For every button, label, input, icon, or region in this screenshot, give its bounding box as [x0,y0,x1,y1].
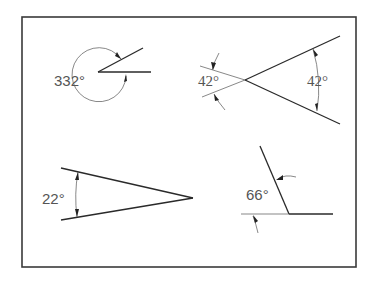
angle-66-label: 66° [246,186,269,203]
drawing-frame [22,17,356,267]
angle-22-arrowhead-top [75,172,79,180]
angle-22-upper-line [61,168,193,198]
angle-dimension-drawing: 332° 42° 42° 22° 66° [0,0,370,281]
angle-332-label: 332° [54,72,85,89]
angle-22-label: 22° [42,190,65,207]
angle-22-lower-line [61,198,193,220]
angle-42-left-arrowhead-top [211,62,216,70]
angle-66-slanted-line [260,146,289,214]
angle-332-upper-line [98,48,143,72]
angle-22-figure: 22° [42,168,193,220]
angle-42-figure: 42° 42° [198,36,340,124]
angle-42-left-arrowhead-bottom [214,94,219,101]
angle-42-left-label: 42° [198,73,219,89]
angle-42-right-label: 42° [307,73,328,89]
angle-66-arrowhead-top [276,175,283,180]
angle-66-figure: 66° [241,146,333,233]
angle-332-figure: 332° [54,48,151,102]
angle-332-arrow-bottom [124,74,127,82]
angle-22-arrowhead-bottom [75,209,79,217]
